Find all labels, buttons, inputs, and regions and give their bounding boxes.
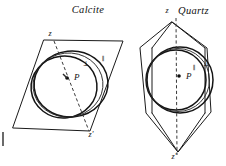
- quartz-parallel-icon: ‖: [193, 64, 196, 71]
- quartz-center-label: P: [185, 71, 192, 81]
- quartz-pyramid-bottom-faces: [152, 113, 205, 152]
- quartz-title: Quartz: [178, 5, 209, 16]
- calcite-center-label: P: [73, 72, 80, 82]
- calcite-axis-bottom-label: z': [88, 130, 94, 139]
- calcite-center-pointer: [63, 74, 67, 78]
- quartz-optic-axis: [176, 18, 177, 155]
- calcite-panel: Calcite z z' P ⊥ ‖: [13, 4, 123, 139]
- calcite-title: Calcite: [72, 4, 104, 15]
- quartz-axis-top-label: z: [164, 6, 169, 15]
- quartz-pyramid-top-faces: [152, 22, 205, 48]
- quartz-intermediate-trace: [147, 49, 210, 112]
- indicatrix-figure: Calcite z z' P ⊥ ‖: [0, 0, 226, 166]
- calcite-perpendicular-icon: ⊥: [83, 60, 89, 68]
- figure-root: Calcite z z' P ⊥ ‖: [0, 0, 226, 166]
- quartz-center-dot: [177, 74, 181, 78]
- quartz-panel: Quartz z z' P ‖ ⊥: [140, 5, 213, 161]
- quartz-hexagon-outline: [140, 22, 211, 152]
- calcite-inner-oval: [28, 53, 100, 122]
- quartz-axis-bottom-label: z': [171, 152, 177, 161]
- calcite-parallel-icon: ‖: [102, 55, 105, 62]
- calcite-axis-top-label: z: [47, 29, 52, 38]
- quartz-perpendicular-icon: ⊥: [203, 60, 209, 68]
